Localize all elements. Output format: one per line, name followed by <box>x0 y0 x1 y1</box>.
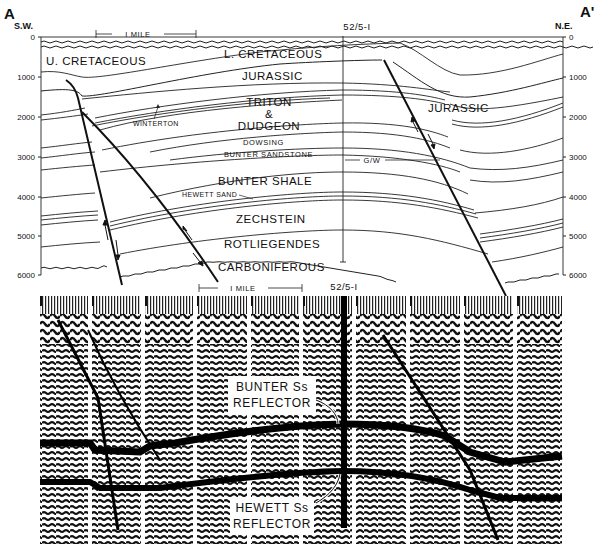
formation-u-cretaceous: U. CRETACEOUS <box>46 55 146 67</box>
fault-right <box>384 60 506 296</box>
formation-jurassic-center: JURASSIC <box>242 70 303 82</box>
svg-text:5000: 5000 <box>17 232 35 241</box>
svg-text:0: 0 <box>569 33 574 42</box>
depth-axis-left: 0 1000 2000 3000 4000 5000 6000 <box>17 33 41 280</box>
formation-jurassic-right: JURASSIC <box>428 102 489 114</box>
formation-bunter-sandstone: BUNTER SANDSTONE <box>224 150 313 159</box>
svg-text:REFLECTOR: REFLECTOR <box>233 396 311 410</box>
seismic-well-track <box>341 296 347 528</box>
svg-text:HEWETT Ss: HEWETT Ss <box>235 501 308 515</box>
section-end-label: A' <box>580 3 594 20</box>
section-start-label: A <box>4 5 15 22</box>
svg-text:2000: 2000 <box>17 113 35 122</box>
depth-axis-right: 0 1000 2000 3000 4000 5000 6000 <box>563 33 587 280</box>
svg-text:6000: 6000 <box>17 271 35 280</box>
svg-text:&: & <box>265 108 273 120</box>
formation-bunter-shale: BUNTER SHALE <box>218 175 312 187</box>
svg-text:3000: 3000 <box>569 153 587 162</box>
svg-text:4000: 4000 <box>569 193 587 202</box>
formation-dudgeon: DUDGEON <box>238 120 300 132</box>
formation-dowsing: DOWSING <box>243 138 284 147</box>
svg-text:BUNTER Ss: BUNTER Ss <box>236 380 308 394</box>
svg-text:3000: 3000 <box>17 153 35 162</box>
geologic-figure: A S.W. A' N.E. I MILE 52/5-I 0 1000 <box>0 0 602 555</box>
svg-text:1000: 1000 <box>569 73 587 82</box>
svg-text:1000: 1000 <box>17 73 35 82</box>
seismic-section: I MILE 52/5-I <box>40 281 562 544</box>
formation-l-cretaceous: L. CRETACEOUS <box>224 48 322 60</box>
formation-rotliegendes: ROTLIEGENDES <box>224 238 320 250</box>
cross-section: A S.W. A' N.E. I MILE 52/5-I 0 1000 <box>4 3 594 296</box>
svg-text:2000: 2000 <box>569 113 587 122</box>
scale-bar-label: I MILE <box>125 30 150 39</box>
seismic-scale-bar-label: I MILE <box>230 284 255 293</box>
svg-text:5000: 5000 <box>569 232 587 241</box>
svg-text:4000: 4000 <box>17 193 35 202</box>
svg-text:0: 0 <box>31 33 36 42</box>
seismic-scale-bar: I MILE <box>199 283 302 293</box>
seismic-well-label: 52/5-I <box>330 281 357 292</box>
svg-text:6000: 6000 <box>569 271 587 280</box>
svg-text:REFLECTOR: REFLECTOR <box>233 517 311 531</box>
formation-zechstein: ZECHSTEIN <box>236 213 306 225</box>
gas-water-contact-label: G/W <box>364 156 381 165</box>
scale-bar: I MILE <box>96 29 196 39</box>
fault-left-steep <box>66 80 122 285</box>
southwest-direction-label: S.W. <box>14 21 33 31</box>
formation-winterton: WINTERTON <box>133 120 179 127</box>
formation-triton: TRITON <box>246 96 292 108</box>
northeast-direction-label: N.E. <box>555 21 573 31</box>
formation-carboniferous: CARBONIFEROUS <box>218 261 325 273</box>
formation-hewett-sand: HEWETT SAND <box>182 191 237 198</box>
well-label: 52/5-I <box>343 21 370 32</box>
